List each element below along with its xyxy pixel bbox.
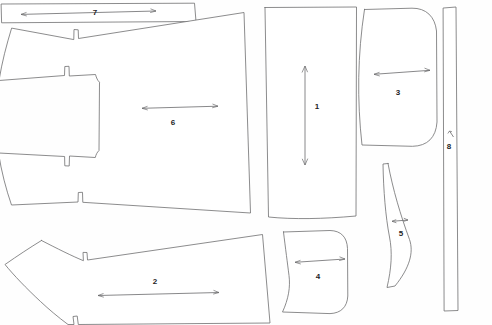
piece-5-outline[interactable] [383,164,411,288]
pattern-piece-7[interactable]: 7 [2,3,197,23]
piece-2-outline[interactable] [5,235,270,325]
pattern-piece-1[interactable]: 1 [265,7,357,219]
pattern-diagram-svg: 7 6 2 1 [0,0,492,325]
piece-7-outline[interactable] [2,3,197,23]
pattern-piece-8[interactable]: 8 [444,7,459,311]
pattern-layout-canvas: 7 6 2 1 [0,0,492,325]
piece-6-outline[interactable] [0,13,251,214]
piece-5-label: 5 [399,229,404,238]
piece-8-label: 8 [447,142,452,151]
pattern-piece-4[interactable]: 4 [283,231,348,314]
piece-1-outline[interactable] [265,7,357,219]
piece-1-label: 1 [315,102,320,111]
pattern-piece-3[interactable]: 3 [359,8,437,146]
piece-3-label: 3 [396,88,401,97]
piece-2-label: 2 [153,277,158,286]
pattern-piece-6[interactable]: 6 [0,13,251,214]
piece-3-outline[interactable] [359,8,437,146]
pattern-piece-2[interactable]: 2 [5,235,270,325]
piece-8-outline[interactable] [444,7,459,311]
piece-7-label: 7 [93,8,98,17]
piece-4-label: 4 [316,272,321,281]
piece-6-label: 6 [171,118,176,127]
pattern-piece-5[interactable]: 5 [383,164,411,288]
